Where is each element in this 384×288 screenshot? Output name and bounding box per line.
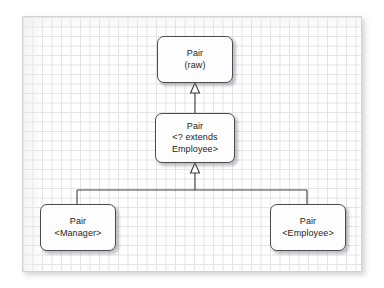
class-node-line: Pair bbox=[300, 216, 316, 228]
class-node-line: <? extends bbox=[172, 132, 217, 144]
class-node-pair-manager[interactable]: Pair <Manager> bbox=[40, 204, 116, 251]
class-node-line: Pair bbox=[187, 121, 203, 133]
diagram-stage: Pair (raw) Pair <? extends Employee> Pai… bbox=[0, 0, 384, 288]
class-node-line: Employee> bbox=[172, 144, 218, 156]
class-node-line: Pair bbox=[70, 216, 86, 228]
class-node-pair-employee[interactable]: Pair <Employee> bbox=[270, 204, 346, 251]
class-node-pair-wildcard[interactable]: Pair <? extends Employee> bbox=[155, 113, 235, 163]
class-node-line: <Manager> bbox=[55, 228, 102, 240]
class-node-line: (raw) bbox=[185, 60, 206, 72]
class-node-line: <Employee> bbox=[282, 228, 334, 240]
class-node-pair-raw[interactable]: Pair (raw) bbox=[157, 36, 233, 83]
class-node-line: Pair bbox=[187, 48, 203, 60]
